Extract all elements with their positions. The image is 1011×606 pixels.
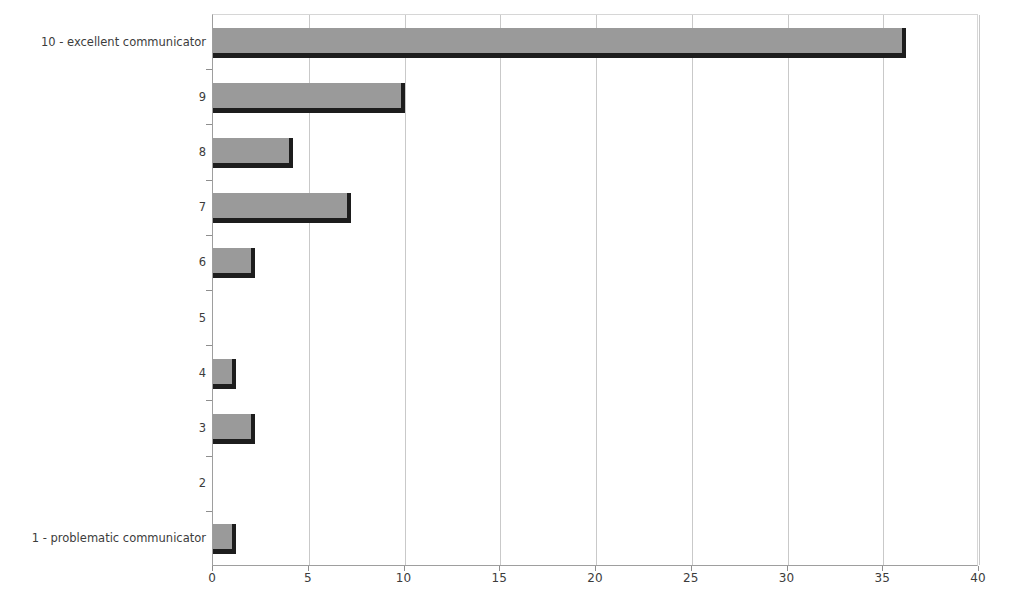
bar: [213, 524, 236, 554]
x-axis-label: 15: [492, 571, 507, 585]
x-axis-tick: [404, 566, 405, 571]
bar: [213, 28, 906, 58]
x-axis-tick: [499, 566, 500, 571]
bar: [213, 83, 405, 113]
y-axis-label: 4: [0, 366, 206, 380]
x-axis-tick: [882, 566, 883, 571]
x-axis-label: 35: [875, 571, 890, 585]
x-axis-tick-labels: 0510152025303540: [0, 571, 1011, 601]
x-axis-label: 40: [970, 571, 985, 585]
bar-row: [213, 236, 977, 291]
x-axis-label: 25: [683, 571, 698, 585]
gridline-40: [979, 15, 980, 565]
bars-layer: [213, 15, 977, 565]
bar-row: [213, 401, 977, 456]
y-axis-label: 5: [0, 311, 206, 325]
x-axis-label: 0: [208, 571, 216, 585]
y-axis-label: 2: [0, 476, 206, 490]
x-axis-tick: [978, 566, 979, 571]
x-axis-tick: [595, 566, 596, 571]
y-axis-label: 6: [0, 255, 206, 269]
x-axis-label: 10: [396, 571, 411, 585]
x-axis-label: 5: [304, 571, 312, 585]
bar-row: [213, 512, 977, 567]
y-axis-label: 8: [0, 145, 206, 159]
y-axis-label: 7: [0, 200, 206, 214]
plot-area: [212, 14, 978, 566]
x-axis-tick: [212, 566, 213, 571]
bar-row: [213, 125, 977, 180]
y-axis-label: 10 - excellent communicator: [0, 35, 206, 49]
x-axis-label: 20: [587, 571, 602, 585]
bar: [213, 193, 351, 223]
bar: [213, 138, 293, 168]
bar-row: [213, 346, 977, 401]
bar-row: [213, 15, 977, 70]
x-axis-tick: [787, 566, 788, 571]
y-axis-category-labels: 10 - excellent communicator987654321 - p…: [0, 14, 206, 566]
bar: [213, 248, 255, 278]
x-axis-tick: [308, 566, 309, 571]
y-axis-label: 1 - problematic communicator: [0, 531, 206, 545]
y-axis-label: 9: [0, 90, 206, 104]
bar-row: [213, 70, 977, 125]
bar-row: [213, 457, 977, 512]
x-axis-label: 30: [779, 571, 794, 585]
bar-row: [213, 291, 977, 346]
bar: [213, 414, 255, 444]
x-axis-tick: [691, 566, 692, 571]
horizontal-bar-chart: 10 - excellent communicator987654321 - p…: [0, 0, 1011, 606]
bar: [213, 359, 236, 389]
bar-row: [213, 181, 977, 236]
y-axis-label: 3: [0, 421, 206, 435]
